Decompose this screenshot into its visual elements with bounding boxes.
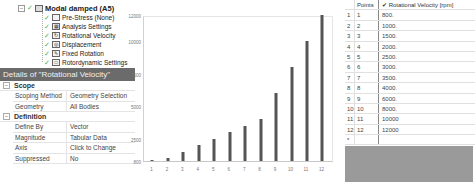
column-header: Points: [355, 0, 379, 9]
table-row[interactable]: 331500.: [345, 31, 475, 41]
check-icon: ✓: [44, 23, 50, 31]
plot-area: [143, 16, 333, 162]
check-icon: ✓: [44, 41, 50, 49]
table-row[interactable]: 111110000: [345, 114, 475, 124]
property-axis[interactable]: Axis Click to Change: [13, 143, 135, 154]
x-tick-label: 3: [181, 167, 184, 172]
table-cell: 6: [345, 62, 355, 71]
table-cell: 2: [355, 21, 379, 30]
tree-item-fixed-rotation[interactable]: ✓ ✎ Fixed Rotation: [44, 49, 104, 58]
x-tick-label: 9: [274, 167, 277, 172]
rotational-velocity-icon: ↻: [52, 32, 60, 39]
table-cell: 10: [345, 104, 355, 113]
bar: [182, 152, 185, 161]
table-row[interactable]: *: [345, 135, 475, 145]
table-cell[interactable]: 12000: [379, 125, 475, 134]
table-cell[interactable]: 800.: [379, 10, 475, 19]
table-cell: 11: [345, 114, 355, 123]
property-key: Suppressed: [13, 154, 67, 164]
property-magnitude[interactable]: Magnitude Tabular Data: [13, 133, 135, 144]
property-scoping-method[interactable]: Scoping Method Geometry Selection: [13, 91, 135, 102]
table-row[interactable]: 663000.: [345, 62, 475, 72]
table-cell: 3: [345, 31, 355, 40]
property-suppressed[interactable]: Suppressed No: [13, 154, 135, 165]
bar: [166, 158, 169, 161]
group-label: Scope: [14, 82, 35, 89]
y-tick-label: 2500: [125, 137, 141, 142]
table-row[interactable]: 442000.: [345, 42, 475, 52]
folder-icon: [35, 5, 43, 12]
table-cell[interactable]: [379, 135, 475, 144]
table-row[interactable]: 773500.: [345, 73, 475, 83]
bar: [305, 41, 308, 161]
collapse-icon[interactable]: −: [3, 113, 10, 120]
tree-item-pre-stress[interactable]: ✓ Pre-Stress (None): [44, 13, 114, 22]
y-tick-label: 5000: [125, 105, 141, 110]
y-tick-label: 800: [125, 160, 141, 165]
group-label: Definition: [14, 113, 46, 120]
table-cell[interactable]: 2500.: [379, 52, 475, 61]
tree-item-label: Rotordynamic Settings: [62, 59, 127, 66]
y-tick-label: 10000: [125, 40, 141, 45]
table-header-row: Points✔ Rotational Velocity [rpm]: [345, 0, 475, 10]
property-key: Geometry: [13, 102, 67, 112]
table-cell[interactable]: 8000.: [379, 104, 475, 113]
collapse-icon[interactable]: −: [18, 5, 25, 12]
table-cell[interactable]: 1500.: [379, 31, 475, 40]
table-cell[interactable]: 3500.: [379, 73, 475, 82]
x-tick-label: 1: [150, 167, 153, 172]
tabular-data-chart: 1200010000750050002500800 12345678910111…: [125, 0, 340, 190]
table-cell[interactable]: 1000.: [379, 21, 475, 30]
check-icon: ✓: [44, 32, 50, 40]
property-define-by[interactable]: Define By Vector: [13, 122, 135, 133]
table-cell: [355, 135, 379, 144]
collapse-icon[interactable]: −: [3, 82, 10, 89]
x-tick-label: 2: [166, 167, 169, 172]
bar: [275, 93, 278, 161]
bar: [213, 139, 216, 161]
table-cell: 4: [345, 42, 355, 51]
bar: [197, 145, 200, 161]
tree-item-rotordynamic-settings[interactable]: ✓ □ Rotordynamic Settings: [44, 58, 127, 67]
table-row[interactable]: 552500.: [345, 52, 475, 62]
table-cell: 5: [345, 52, 355, 61]
tree-item-rotational-velocity[interactable]: ✓ ↻ Rotational Velocity: [44, 31, 115, 40]
y-tick-label: 12000: [125, 14, 141, 19]
table-empty-area: [345, 146, 473, 182]
analysis-settings-icon: ▦: [52, 23, 60, 30]
bar: [321, 15, 324, 161]
check-icon: ✓: [44, 14, 50, 22]
table-row[interactable]: 121212000: [345, 125, 475, 135]
tree-item-displacement[interactable]: ✓ ◎ Displacement: [44, 40, 101, 49]
table-cell: 1: [345, 10, 355, 19]
table-row[interactable]: 221000.: [345, 21, 475, 31]
table-cell[interactable]: 3000.: [379, 62, 475, 71]
bar: [228, 132, 231, 161]
table-cell: 12: [355, 125, 379, 134]
table-cell: 8: [345, 83, 355, 92]
displacement-icon: ◎: [52, 41, 60, 48]
tree-connector: [42, 12, 43, 62]
table-row[interactable]: 996000.: [345, 94, 475, 104]
rotordynamic-settings-icon: □: [52, 59, 60, 66]
table-cell: 9: [355, 94, 379, 103]
table-cell: 3: [355, 31, 379, 40]
table-cell[interactable]: 6000.: [379, 94, 475, 103]
tree-item-analysis-settings[interactable]: ✓ ▦ Analysis Settings: [44, 22, 112, 31]
outline-tree: − ✓ Modal damped (A5) ✓ Pre-Stress (None…: [0, 0, 135, 68]
table-row[interactable]: 884000.: [345, 83, 475, 93]
check-icon: ✓: [44, 50, 50, 58]
tree-root-modal-damped[interactable]: − ✓ Modal damped (A5): [18, 3, 114, 13]
property-geometry[interactable]: Geometry All Bodies: [13, 102, 135, 113]
property-key: Magnitude: [13, 133, 67, 143]
group-definition[interactable]: − Definition: [0, 112, 135, 122]
table-cell: 4: [355, 42, 379, 51]
table-cell[interactable]: 2000.: [379, 42, 475, 51]
tree-item-label: Rotational Velocity: [62, 32, 115, 39]
x-tick-label: 6: [227, 167, 230, 172]
table-cell[interactable]: 4000.: [379, 83, 475, 92]
table-cell[interactable]: 10000: [379, 114, 475, 123]
table-row[interactable]: 10108000.: [345, 104, 475, 114]
table-row[interactable]: 11800.: [345, 10, 475, 20]
group-scope[interactable]: − Scope: [0, 81, 135, 91]
